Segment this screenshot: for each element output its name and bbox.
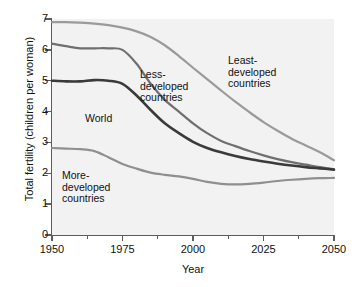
series-label-least-developed: Least- developed countries (228, 55, 276, 90)
series-line-least-developed-countries (52, 22, 334, 160)
series-label-less-developed: Less- developed countries (140, 69, 188, 104)
series-curves (0, 0, 360, 287)
fertility-chart-figure: 01234567 19501975200020252050 Total fert… (0, 0, 360, 287)
series-label-world: World (85, 113, 112, 125)
series-label-more-developed: More- developed countries (62, 170, 110, 205)
series-line-world (52, 80, 334, 170)
